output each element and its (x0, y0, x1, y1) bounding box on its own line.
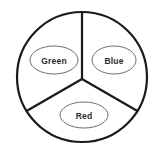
blue-sector-label: Blue (104, 56, 123, 66)
green-sector-label: Green (41, 56, 67, 66)
red-sector-label: Red (76, 111, 93, 121)
three-sector-circle-diagram: Green Blue Red (0, 0, 165, 151)
diagram-canvas: Green Blue Red (0, 0, 165, 151)
